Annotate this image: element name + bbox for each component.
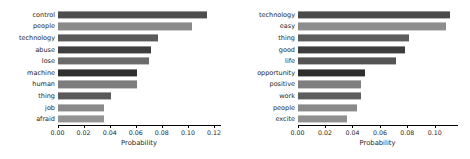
ytick-label: control — [32, 11, 55, 19]
xtick-label: 0.06 — [129, 129, 143, 136]
dual-bar-chart-figure: controlpeopletechnologyabuselosemachineh… — [0, 0, 470, 159]
xtick-label: 0.08 — [155, 129, 169, 136]
right-chart-panel: technologyeasythinggoodlifeopportunitypo… — [235, 0, 470, 159]
ytick-label: life — [285, 57, 295, 65]
xtick-mark — [162, 126, 163, 128]
xtick-mark — [84, 126, 85, 128]
ytick-label: technology — [259, 11, 295, 19]
xtick-mark — [136, 126, 137, 128]
xtick-mark — [214, 126, 215, 128]
xtick-mark — [407, 126, 408, 128]
bar — [58, 34, 158, 41]
bar — [298, 92, 361, 99]
xtick-mark — [435, 126, 436, 128]
bar — [298, 34, 409, 41]
xtick-mark — [352, 126, 353, 128]
xtick-label: 0.12 — [207, 129, 221, 136]
xtick-mark — [58, 126, 59, 128]
xtick-label: 0.02 — [318, 129, 332, 136]
ytick-label: technology — [19, 34, 55, 42]
bar — [58, 104, 105, 111]
ytick-label: thing — [38, 92, 55, 100]
bar — [298, 23, 446, 30]
bar — [298, 104, 357, 111]
ytick-label: human — [32, 80, 55, 88]
x-axis-line — [58, 125, 221, 126]
xtick-mark — [325, 126, 326, 128]
bar — [58, 92, 111, 99]
ytick-label: thing — [278, 34, 295, 42]
ytick-label: positive — [270, 80, 296, 88]
ytick-label: machine — [27, 69, 55, 77]
xtick-mark — [380, 126, 381, 128]
bar — [58, 69, 138, 76]
bar — [58, 81, 138, 88]
bar — [298, 58, 397, 65]
right-plot-area: technologyeasythinggoodlifeopportunitypo… — [298, 9, 458, 125]
bar — [58, 116, 105, 123]
xtick-label: 0.02 — [77, 129, 91, 136]
xtick-label: 0.04 — [345, 129, 359, 136]
bar — [58, 58, 149, 65]
xtick-label: 0.00 — [50, 129, 64, 136]
xtick-mark — [298, 126, 299, 128]
ytick-label: easy — [280, 22, 295, 30]
ytick-label: lose — [42, 57, 55, 65]
bar — [298, 11, 450, 18]
ytick-label: opportunity — [257, 69, 295, 77]
bar — [298, 46, 405, 53]
xtick-mark — [188, 126, 189, 128]
ytick-label: job — [45, 104, 55, 112]
ytick-label: good — [279, 46, 295, 54]
ytick-label: afraid — [36, 115, 55, 123]
xtick-label: 0.06 — [373, 129, 387, 136]
bar — [298, 81, 361, 88]
x-axis-title: Probability — [360, 139, 396, 147]
left-chart-panel: controlpeopletechnologyabuselosemachineh… — [0, 0, 235, 159]
ytick-label: people — [33, 22, 55, 30]
xtick-label: 0.00 — [290, 129, 304, 136]
xtick-mark — [110, 126, 111, 128]
bar — [58, 46, 152, 53]
x-axis-title: Probability — [121, 139, 157, 147]
ytick-label: people — [273, 104, 295, 112]
bar — [298, 69, 365, 76]
bar — [58, 11, 208, 18]
left-plot-area: controlpeopletechnologyabuselosemachineh… — [58, 9, 221, 125]
bar — [58, 23, 192, 30]
ytick-label: work — [279, 92, 295, 100]
xtick-label: 0.10 — [428, 129, 442, 136]
xtick-label: 0.10 — [181, 129, 195, 136]
x-axis-line — [298, 125, 458, 126]
ytick-label: abuse — [35, 46, 55, 54]
bar — [298, 116, 347, 123]
xtick-label: 0.08 — [400, 129, 414, 136]
xtick-label: 0.04 — [103, 129, 117, 136]
ytick-label: excite — [275, 115, 295, 123]
